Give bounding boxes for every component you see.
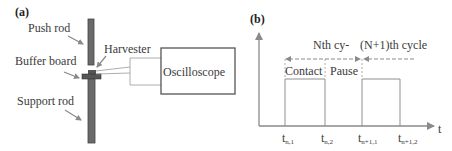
support-rod-pointer-arrow: [65, 110, 81, 120]
push-rod-pointer-arrow: [68, 36, 83, 44]
support-rod: [88, 79, 95, 143]
nth-cycle-label: Nth cy-: [313, 39, 349, 51]
contact-phase-label: Contact: [285, 65, 322, 77]
nth-cycle-arrow-right-head: [355, 56, 361, 62]
push-rod-label: Push rod: [28, 22, 70, 34]
tick-label-tn2: tn,2: [321, 132, 333, 148]
n1-cycle-arrow-left-head: [363, 56, 369, 62]
oscilloscope-label: Oscilloscope: [163, 66, 225, 78]
harvester-label: Harvester: [104, 43, 151, 55]
buffer-board: [82, 74, 101, 79]
time-axis-label: t: [438, 123, 441, 135]
push-rod: [88, 19, 94, 65]
harvester-wires: [96, 58, 161, 85]
panel-a-label: (a): [15, 6, 29, 18]
pause-phase-label: Pause: [330, 65, 358, 77]
buffer-board-pointer-arrow: [64, 72, 79, 78]
nth-cycle-arrow-left-head: [285, 56, 291, 62]
panel-b-label: (b): [250, 13, 265, 25]
buffer-board-label: Buffer board: [15, 55, 76, 67]
support-rod-label: Support rod: [17, 95, 74, 107]
contact-pulses: [285, 79, 400, 126]
tick-label-tn11: tn+1,1: [358, 132, 378, 148]
harvester-pointer-arrow: [97, 56, 106, 67]
tick-label-tn1: tn,1: [282, 132, 294, 148]
n1-cycle-label: (N+1)th cycle: [360, 39, 427, 51]
harvester-block: [88, 70, 96, 74]
tick-label-tn12: tn+1,2: [398, 132, 418, 148]
